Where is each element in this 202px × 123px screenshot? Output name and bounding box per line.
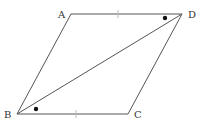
vertex-label-a: A bbox=[57, 9, 66, 20]
diagonal-bd bbox=[17, 14, 182, 114]
vertex-label-c: C bbox=[134, 109, 142, 120]
side-ab bbox=[17, 14, 71, 114]
angle-mark-b-dot bbox=[34, 107, 38, 111]
parallelogram-diagram: A D B C bbox=[0, 0, 202, 123]
angle-mark-d-dot bbox=[163, 16, 167, 20]
side-cd bbox=[128, 14, 182, 114]
vertex-label-b: B bbox=[4, 109, 11, 120]
vertex-label-d: D bbox=[188, 9, 196, 20]
